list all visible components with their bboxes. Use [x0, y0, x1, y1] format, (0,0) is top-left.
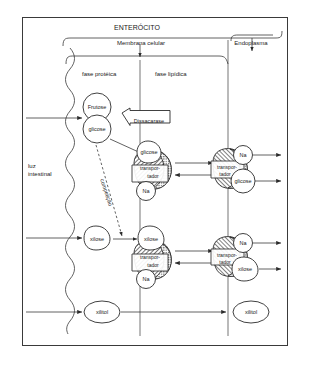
carrier-label-line1-row1-right: transpor- [217, 165, 237, 171]
xylitol-label-endoplasm: xilitol [245, 309, 257, 315]
carrier-label-line2-row2-right: tador [219, 260, 230, 266]
glucose-label-row1-right: glicose [234, 178, 251, 184]
diagram-vector-layer [0, 0, 309, 376]
disaccharidase-label: Dissacarase [134, 118, 164, 124]
lipid-phase-label: fase lipídica [155, 71, 187, 78]
sodium-label-row1-right: Na [239, 152, 246, 158]
carrier-label-line1-row2-right: transpor- [217, 253, 237, 259]
sodium-label-row2-right: Na [239, 240, 246, 246]
protein-phase-label: fase protéica [82, 71, 116, 78]
sodium-label-row1-left: Na [142, 188, 149, 194]
membrane-label: Membrana celular [117, 40, 165, 47]
glucose-label-lumen: glicose [88, 126, 105, 132]
diagram-canvas: ENTERÓCITO Membrana celular Endoplasma f… [0, 0, 309, 376]
xylose-label-row2-right: xilose [238, 266, 252, 272]
carrier-label-line1-row2: transpor- [140, 255, 160, 261]
xylose-label-lumen: xilose [90, 236, 104, 242]
membrane-bracket [66, 56, 228, 64]
glucose-label-membrane: glicose [140, 149, 157, 155]
lumen-label-line1: luz [28, 163, 36, 170]
endoplasm-label: Endoplasma [234, 40, 267, 47]
carrier-label-line2-row2: tador [147, 263, 158, 269]
xylose-label-membrane: xilose [144, 236, 158, 242]
xylitol-label-lumen: xilitol [96, 309, 108, 315]
brush-border-wavy-line [66, 48, 75, 334]
page-title: ENTERÓCITO [114, 24, 160, 32]
lumen-label-line2: intestinal [28, 171, 52, 178]
fructose-label: Frutose [88, 104, 107, 110]
carrier-label-line2-row1-right: tador [219, 172, 230, 178]
carrier-label-line2-row1: tador [147, 174, 158, 180]
sodium-label-row2-left: Na [142, 276, 149, 282]
carrier-label-line1-row1: transpor- [140, 166, 160, 172]
